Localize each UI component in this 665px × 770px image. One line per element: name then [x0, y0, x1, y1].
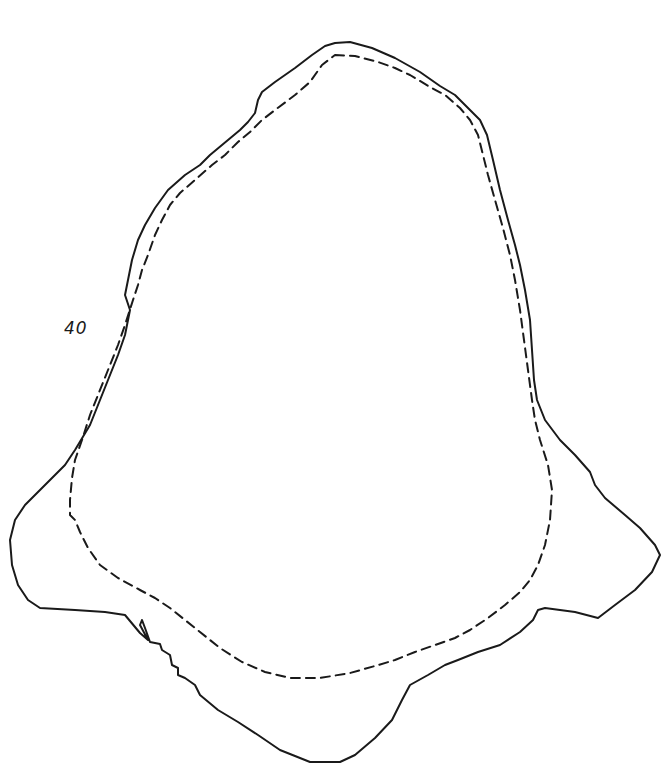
diagram-canvas: 40	[0, 0, 665, 770]
outer-solid-outline	[10, 42, 660, 762]
outline-drawing	[0, 0, 665, 770]
inner-dashed-outline	[70, 55, 552, 678]
figure-number-label: 40	[64, 318, 88, 338]
